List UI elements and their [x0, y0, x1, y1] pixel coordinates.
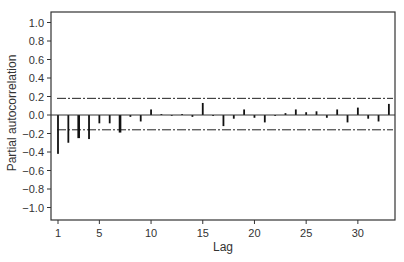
y-tick-label: −1.0	[22, 202, 44, 214]
pacf-bar	[316, 111, 318, 115]
y-tick-label: 0.0	[29, 109, 44, 121]
y-tick-label: −0.2	[22, 128, 44, 140]
pacf-bar	[202, 103, 204, 115]
y-tick-label: −0.8	[22, 183, 44, 195]
x-tick-label: 10	[145, 227, 157, 239]
pacf-bar	[119, 115, 122, 133]
pacf-bar	[378, 115, 380, 121]
pacf-bar	[233, 115, 235, 119]
pacf-bar	[223, 115, 225, 126]
pacf-bar	[388, 104, 390, 115]
y-tick-label: −0.6	[22, 165, 44, 177]
y-tick-label: 0.6	[29, 54, 44, 66]
pacf-bar	[77, 115, 80, 138]
pacf-bars	[57, 103, 390, 154]
y-tick-label: 0.8	[29, 35, 44, 47]
x-axis-label: Lag	[213, 240, 233, 254]
y-tick-label: 0.2	[29, 91, 44, 103]
pacf-bar	[295, 109, 297, 115]
pacf-bar	[98, 115, 100, 123]
x-tick-label: 5	[96, 227, 102, 239]
pacf-bar	[57, 115, 59, 154]
x-tick-label: 20	[248, 227, 260, 239]
pacf-bar	[347, 115, 349, 122]
pacf-bar	[264, 115, 266, 122]
x-tick-label: 1	[55, 227, 61, 239]
pacf-bar	[336, 109, 338, 115]
pacf-bar	[367, 115, 369, 119]
x-tick-label: 30	[352, 227, 364, 239]
y-tick-label: −0.4	[22, 146, 44, 158]
y-axis-label: Partial autocorrelation	[5, 55, 19, 172]
pacf-bar	[67, 115, 69, 143]
x-axis-ticks: 151015202530	[55, 220, 364, 239]
pacf-bar	[88, 115, 90, 139]
x-tick-label: 25	[300, 227, 312, 239]
y-axis-ticks: 1.00.80.60.40.20.0−0.2−0.4−0.6−0.8−1.0	[22, 17, 51, 214]
pacf-bar	[150, 109, 152, 115]
y-tick-label: 0.4	[29, 72, 44, 84]
pacf-bar	[243, 109, 245, 115]
pacf-bar	[357, 108, 359, 115]
pacf-chart: 1.00.80.60.40.20.0−0.2−0.4−0.6−0.8−1.0 1…	[0, 0, 404, 262]
pacf-bar	[140, 115, 142, 121]
pacf-bar	[109, 115, 111, 123]
x-tick-label: 15	[197, 227, 209, 239]
y-tick-label: 1.0	[29, 17, 44, 29]
confidence-bounds	[57, 98, 393, 129]
